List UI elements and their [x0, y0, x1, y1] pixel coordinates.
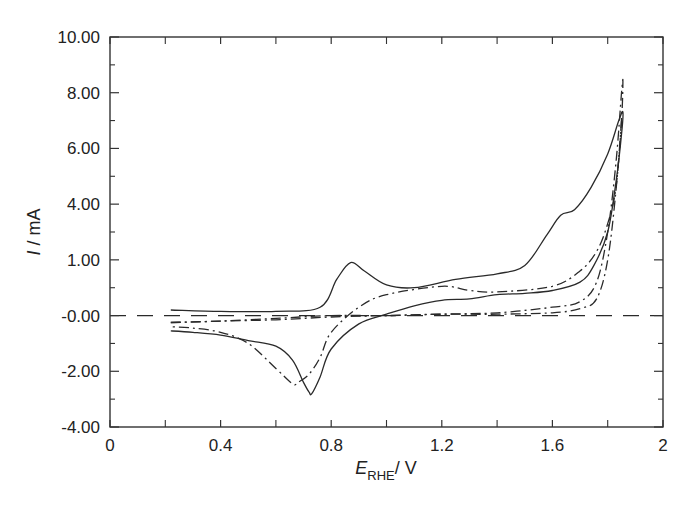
x-tick-label: 2: [658, 436, 667, 455]
y-tick-label: 6.00: [67, 139, 100, 158]
x-tick-label: 1.6: [541, 436, 565, 455]
y-tick-label: 1.00: [67, 251, 100, 270]
x-axis-title: ERHE/ V: [355, 458, 416, 483]
plot-border: [110, 37, 663, 427]
y-tick-label: -4.00: [61, 418, 100, 437]
series-dash-dot-lower-cycle: [171, 121, 622, 323]
x-tick-label: 1.2: [430, 436, 454, 455]
y-tick-label: 4.00: [67, 195, 100, 214]
plot-frame: [110, 37, 663, 427]
y-axis-title: I / mA: [24, 208, 44, 255]
y-tick-label: -2.00: [61, 362, 100, 381]
x-axis-ticks: 00.40.81.21.62: [105, 37, 667, 455]
data-series: [171, 79, 623, 394]
x-tick-label: 0: [105, 436, 114, 455]
y-tick-label: -0.00: [61, 307, 100, 326]
y-axis-ticks: 10.008.006.004.001.00-0.00-2.00-4.00: [57, 28, 663, 437]
x-tick-label: 0.8: [319, 436, 343, 455]
y-tick-label: 8.00: [67, 84, 100, 103]
series-solid-cycle: [171, 112, 623, 395]
y-tick-label: 10.00: [57, 28, 100, 47]
x-tick-label: 0.4: [209, 436, 233, 455]
cyclic-voltammogram-chart: 10.008.006.004.001.00-0.00-2.00-4.00 00.…: [0, 0, 690, 511]
